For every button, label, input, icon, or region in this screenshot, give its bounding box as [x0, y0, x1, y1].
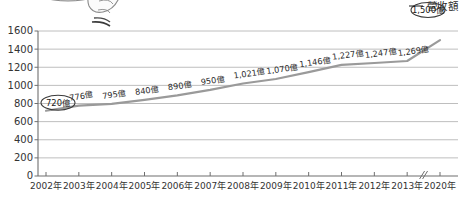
- svg-text:795億: 795億: [102, 88, 127, 101]
- svg-text:2013年: 2013年: [391, 180, 423, 191]
- svg-text:1,021億: 1,021億: [233, 66, 266, 80]
- svg-text:2010年: 2010年: [293, 180, 325, 191]
- y-axis-tick-labels: 02004006008001000120014001600: [8, 25, 33, 181]
- svg-text:400: 400: [14, 134, 33, 145]
- svg-text:1200: 1200: [8, 62, 33, 73]
- svg-text:890億: 890億: [167, 79, 192, 92]
- svg-text:200: 200: [14, 152, 33, 163]
- revenue-line-chart: 營收額 02004006008001000120014001600 2002年2…: [0, 0, 460, 200]
- plot-area: 02004006008001000120014001600 2002年2003年…: [0, 0, 460, 200]
- svg-text:1,269億: 1,269億: [397, 44, 430, 58]
- axis-break-mark: [420, 171, 428, 179]
- svg-text:0: 0: [27, 170, 33, 181]
- svg-text:800: 800: [14, 98, 33, 109]
- svg-text:950億: 950億: [200, 74, 225, 87]
- svg-text:2003年: 2003年: [63, 180, 95, 191]
- data-point-labels: 776億795億840億890億950億1,021億1,070億1,146億1,…: [69, 44, 430, 103]
- svg-text:840億: 840億: [134, 84, 159, 97]
- svg-text:1,227億: 1,227億: [331, 48, 364, 62]
- svg-text:2007年: 2007年: [194, 180, 226, 191]
- svg-text:1600: 1600: [8, 25, 33, 36]
- svg-text:2005年: 2005年: [129, 180, 161, 191]
- svg-text:2006年: 2006年: [161, 180, 193, 191]
- svg-text:720億: 720億: [46, 98, 71, 108]
- svg-text:1000: 1000: [8, 80, 33, 91]
- svg-text:2002年: 2002年: [30, 180, 62, 191]
- svg-text:2004年: 2004年: [96, 180, 128, 191]
- svg-text:2012年: 2012年: [358, 180, 390, 191]
- svg-text:2020年: 2020年: [424, 180, 456, 191]
- svg-text:600: 600: [14, 116, 33, 127]
- svg-text:1,070億: 1,070億: [266, 62, 299, 76]
- svg-text:776億: 776億: [69, 89, 94, 102]
- x-axis-tick-labels: 2002年2003年2004年2005年2006年2007年2008年2009年…: [30, 180, 456, 191]
- svg-text:2009年: 2009年: [260, 180, 292, 191]
- svg-text:1,247億: 1,247億: [364, 46, 397, 60]
- svg-text:1,500億: 1,500億: [412, 5, 445, 15]
- x-axis-tick-marks: [46, 172, 440, 176]
- svg-text:2011年: 2011年: [326, 180, 358, 191]
- svg-text:2008年: 2008年: [227, 180, 259, 191]
- svg-text:1400: 1400: [8, 44, 33, 55]
